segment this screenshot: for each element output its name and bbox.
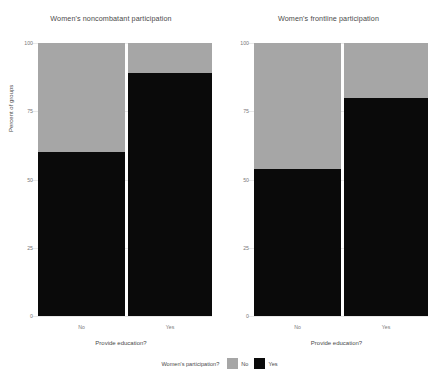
legend-title: Women's participation? [161,361,219,367]
plot-area: 100 75 50 25 0 No Yes [38,43,212,316]
x-axis-label: Provide education? [226,340,439,346]
panel-title: Women's noncombatant participation [0,14,222,23]
y-tick-0: 0 [30,313,33,319]
x-tick-yes: Yes [382,324,390,330]
bar-segment-no [128,43,212,73]
x-tick-yes: Yes [166,324,174,330]
y-tick-75: 75 [243,108,249,114]
y-tick-25: 25 [243,245,249,251]
bar-segment-no [344,43,428,98]
bar-segment-no [38,43,125,152]
y-tick-100: 100 [24,40,33,46]
chart-root: Women's noncombatant participation Perce… [0,0,439,384]
bar-segment-yes [254,169,341,316]
legend-item-yes[interactable]: Yes [254,358,277,369]
bar-no[interactable]: No [38,43,125,316]
legend-item-no[interactable]: No [227,358,248,369]
x-tick-no: No [294,324,301,330]
bar-yes[interactable]: Yes [128,43,212,316]
legend-label-no: No [241,361,248,367]
bar-no[interactable]: No [254,43,341,316]
y-axis-label: Percent of groups [8,85,14,132]
y-tick-75: 75 [27,108,33,114]
panel-frontline: Women's frontline participation 100 75 5… [218,0,439,352]
x-axis-label: Provide education? [10,340,232,346]
y-tick-25: 25 [27,245,33,251]
gridline-0 [32,316,212,317]
panel-noncombatant: Women's noncombatant participation Perce… [0,0,222,352]
bar-segment-yes [128,73,212,316]
y-tick-50: 50 [243,177,249,183]
gridline-0 [248,316,428,317]
legend-swatch-no [227,358,238,369]
y-tick-50: 50 [27,177,33,183]
plot-area: 100 75 50 25 0 No Yes [254,43,428,316]
y-tick-0: 0 [246,313,249,319]
x-tick-no: No [78,324,85,330]
bar-segment-no [254,43,341,169]
bar-segment-yes [344,98,428,316]
bar-segment-yes [38,152,125,316]
panel-title: Women's frontline participation [218,14,439,23]
bar-yes[interactable]: Yes [344,43,428,316]
legend: Women's participation? No Yes [0,358,439,369]
y-tick-100: 100 [240,40,249,46]
legend-swatch-yes [254,358,265,369]
legend-label-yes: Yes [268,361,277,367]
